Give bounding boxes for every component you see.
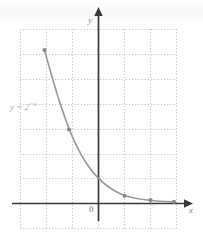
y-axis [94,7,102,221]
origin-label: 0 [89,205,94,214]
y-axis-label: y [88,16,92,25]
x-axis [12,199,193,207]
exponential-decay-plot [0,0,203,234]
curve-equation-label: y = 2−x [10,103,36,112]
curve-equation-exponent: −x [29,100,36,107]
curve-equation-base: y = 2 [10,102,29,112]
graph-figure: y x 0 y = 2−x [0,0,203,234]
exponential-curve [45,50,174,202]
x-axis-label: x [189,206,193,215]
curve-data-markers [42,48,176,204]
